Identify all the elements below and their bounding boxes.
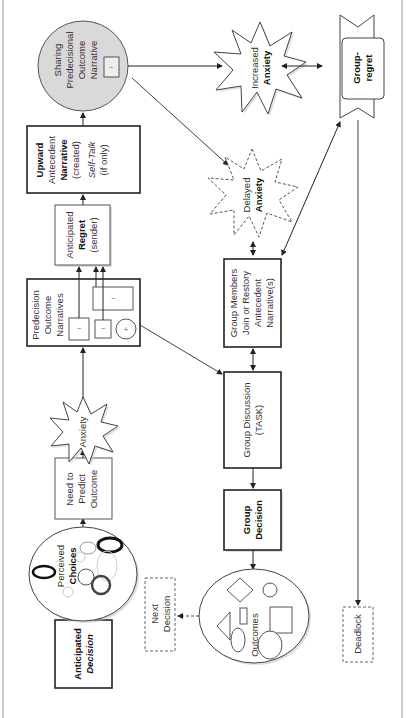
anxiety-label: Anxiety [77, 416, 88, 447]
minus-sign: − [111, 295, 115, 302]
group-decision-line1: Group [241, 506, 252, 535]
node-anticipated-decision: Anticipated Decision [55, 620, 112, 688]
outcomes-label: Outcomes [249, 613, 260, 657]
minus-sign: − [77, 325, 81, 332]
upward-line3: Narrative [58, 139, 69, 180]
discussion-line1: Group Discussion [241, 383, 252, 458]
sharing-line1: Sharing [52, 44, 63, 77]
increased-line2: Anxiety [261, 50, 272, 85]
node-perceived-choices: Perceived Choices [29, 527, 139, 623]
upward-line6: (if only) [98, 144, 109, 175]
members-line1: Group Members [228, 268, 239, 337]
predecision-line3: Narratives [54, 293, 65, 337]
node-anticipated-regret: Anticipated Regret (sender) [55, 205, 112, 267]
anticipated-decision-line1: Anticipated [72, 628, 83, 680]
need-line2: Predict [76, 474, 87, 504]
sharing-line2: Predecisional [64, 31, 75, 88]
need-line1: Need to [64, 472, 75, 505]
group-decision-line2: Decision [253, 500, 264, 540]
node-anxiety: Anxiety [50, 397, 120, 466]
node-increased-anxiety: Increased Anxiety [214, 22, 308, 116]
node-deadlock: Deadlock [343, 607, 373, 662]
members-line4: Narrative(s) [264, 278, 275, 328]
delayed-line2: Anxiety [253, 177, 264, 212]
node-group-discussion: Group Discussion (TASK) [224, 372, 281, 468]
arrow-sharing-to-delayed [132, 78, 228, 165]
deadlock-label: Deadlock [352, 614, 363, 654]
node-next-decision: Next Decision [145, 578, 175, 651]
upward-line4: (created) [70, 141, 81, 179]
group-regret-line1: Group- [351, 52, 362, 84]
node-group-regret: Group- regret [340, 15, 384, 118]
plus-sign: + [124, 326, 128, 333]
members-line2: Join or Restory [240, 271, 251, 335]
anticipated-decision-line2: Decision [84, 634, 95, 674]
next-line1: Next [149, 604, 160, 624]
upward-line1: Upward [34, 142, 45, 177]
perceived-choices-line1: Perceived [55, 545, 66, 587]
group-regret-line2: regret [363, 54, 374, 82]
minus-sign: − [101, 325, 105, 332]
arrow-predecision-to-discussion [140, 325, 222, 374]
minus-sign: − [109, 64, 113, 71]
regret-process-diagram: Anticipated Decision Perceived Choices N… [0, 0, 408, 718]
increased-line1: Increased [249, 47, 260, 89]
node-sharing-narrative: Sharing Predecisional Outcome Narrative … [38, 21, 128, 111]
sharing-line4: Narrative [88, 41, 99, 80]
node-outcomes: Outcomes [199, 569, 311, 665]
predecision-line2: Outcome [42, 296, 53, 335]
node-delayed-anxiety: Delayed Anxiety [208, 149, 298, 237]
regret-line1: Anticipated [64, 211, 75, 258]
upward-line2: Antecedent [46, 136, 57, 184]
members-line3: Antecedent [252, 279, 263, 327]
upward-line5: Self-Talk [86, 140, 97, 178]
need-line3: Outcome [88, 470, 99, 509]
predecision-line1: Predecision [30, 290, 41, 340]
node-group-members: Group Members Join or Restory Antecedent… [224, 259, 281, 347]
regret-line3: (sender) [88, 217, 99, 252]
next-line2: Decision [161, 596, 172, 632]
discussion-line2: (TASK) [253, 405, 264, 435]
node-need-to-predict: Need to Predict Outcome [55, 458, 112, 519]
node-group-decision: Group Decision [224, 490, 283, 552]
node-upward-narrative: Upward Antecedent Narrative (created) Se… [27, 126, 140, 193]
regret-line2: Regret [76, 219, 87, 250]
delayed-line1: Delayed [241, 178, 252, 213]
sharing-line3: Outcome [76, 41, 87, 80]
node-predecision-narratives: Predecision Outcome Narratives − − − + [27, 279, 140, 346]
perceived-choices-line2: Choices [67, 548, 78, 585]
